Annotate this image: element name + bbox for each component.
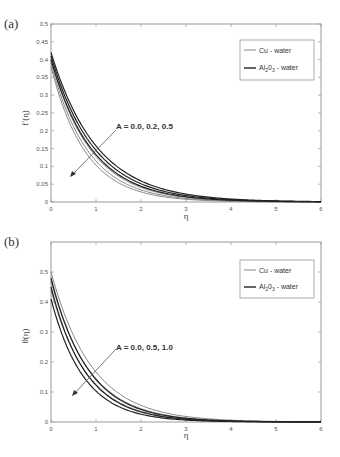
panel-b-temperature-plot: (b) 00.10.20.30.40.5 0123456 θ(η) η A = …: [4, 234, 323, 440]
curve-line: [51, 67, 321, 202]
panel-b-y-axis-label: θ(η): [20, 328, 30, 343]
curve-line: [51, 290, 321, 422]
y-tick-label: 0.25: [36, 110, 48, 116]
curve-line: [51, 60, 321, 202]
x-tick-label: 2: [139, 206, 143, 212]
x-tick-label: 4: [229, 426, 233, 432]
panel-a-x-axis-label: η: [184, 211, 189, 221]
curve-line: [51, 60, 321, 202]
y-tick-label: 0.5: [40, 269, 49, 275]
panel-b-label: (b): [4, 234, 19, 249]
x-tick-label: 1: [94, 426, 98, 432]
x-tick-label: 5: [274, 206, 278, 212]
x-tick-label: 5: [274, 426, 278, 432]
panel-a-y-axis-label: f′(η): [20, 110, 30, 126]
panel-a-velocity-plot: (a) 00.050.10.150.20.250.30.350.40.450.5…: [4, 16, 323, 221]
x-tick-label: 0: [49, 426, 53, 432]
y-tick-label: 0.05: [36, 181, 48, 187]
y-tick-label: 0: [45, 419, 49, 425]
panel-a-label: (a): [4, 16, 18, 31]
panel-b-legend: Cu - water Al203 - water: [240, 260, 314, 298]
y-tick-label: 0.45: [36, 39, 48, 45]
curve-line: [51, 299, 321, 422]
curve-line: [51, 281, 321, 422]
figure: (a) 00.050.10.150.20.250.30.350.40.450.5…: [0, 0, 340, 457]
x-tick-label: 2: [139, 426, 143, 432]
legend-cu-label: Cu - water: [259, 47, 292, 54]
y-tick-label: 0.5: [40, 21, 49, 27]
y-tick-label: 0.4: [40, 57, 49, 63]
y-tick-label: 0.2: [40, 128, 49, 134]
x-tick-label: 6: [319, 426, 323, 432]
x-tick-label: 4: [229, 206, 233, 212]
legend-cu-label: Cu - water: [259, 267, 292, 274]
y-tick-label: 0.35: [36, 74, 48, 80]
y-tick-label: 0: [45, 199, 49, 205]
panel-a-legend: Cu - water Al203 - water: [240, 40, 314, 80]
panel-b-annotation: A = 0.0, 0.5, 1.0: [116, 343, 173, 352]
y-tick-label: 0.15: [36, 146, 48, 152]
curve-line: [51, 63, 321, 202]
curve-line: [51, 278, 321, 422]
panel-b-x-axis-label: η: [184, 430, 189, 440]
y-tick-label: 0.1: [40, 163, 49, 169]
y-tick-label: 0.1: [40, 389, 49, 395]
y-tick-label: 0.4: [40, 299, 49, 305]
curve-line: [51, 287, 321, 422]
y-tick-label: 0.3: [40, 329, 49, 335]
x-tick-label: 6: [319, 206, 323, 212]
panel-a-annotation: A = 0.0, 0.2, 0.5: [116, 122, 173, 131]
x-tick-label: 0: [49, 206, 53, 212]
y-tick-label: 0.2: [40, 359, 49, 365]
y-tick-label: 0.3: [40, 92, 49, 98]
x-tick-label: 1: [94, 206, 98, 212]
